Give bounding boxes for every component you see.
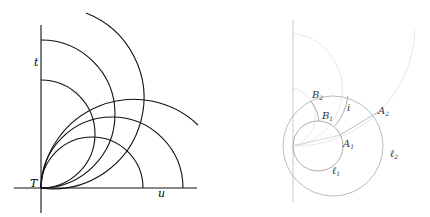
label-t: t — [34, 56, 39, 69]
circle-t3 — [41, 13, 144, 189]
label-A2: A2 — [377, 105, 389, 117]
label-u: u — [158, 187, 165, 200]
label-l2: ℓ2 — [390, 148, 398, 160]
circle-t2 — [41, 40, 115, 188]
label-l1: ℓ1 — [332, 165, 340, 177]
label-A1: A1 — [342, 138, 354, 150]
faint-arc-3 — [293, 30, 415, 146]
left-figure — [14, 13, 198, 213]
diagram-canvas: t u T B2 B1 i A2 A1 ℓ1 ℓ2 — [0, 0, 430, 217]
label-B1: B1 — [321, 110, 333, 122]
circle-u3 — [41, 99, 198, 188]
circle-u2 — [41, 117, 183, 188]
label-i: i — [347, 102, 350, 113]
ray-A — [340, 112, 378, 135]
label-B2: B2 — [311, 89, 323, 101]
